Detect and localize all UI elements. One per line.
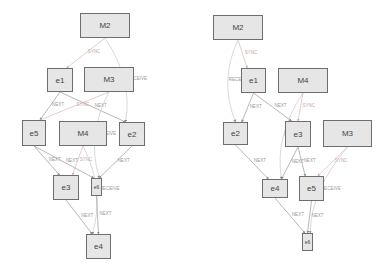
node-left-M4: M4	[59, 121, 107, 146]
edge-label: NEXT	[254, 158, 266, 163]
node-right-M3: M3	[323, 120, 372, 147]
edge-left-e5-e6	[34, 146, 94, 178]
edge-label: NEXT	[118, 158, 130, 163]
edge-label: SYNC	[80, 157, 93, 162]
edge-label: SYNC	[335, 158, 348, 163]
edge-label: NEXT	[304, 158, 316, 163]
node-left-e2: e2	[119, 122, 145, 146]
node-right-e3: e3	[285, 121, 311, 147]
node-right-e6: e6	[302, 233, 313, 251]
edge-label: NEXT	[81, 213, 93, 218]
edge-left-e1-e2	[60, 92, 126, 122]
edge-label: SYNC	[88, 49, 101, 54]
edge-label: NEXT	[95, 103, 107, 108]
node-right-M4: M4	[278, 68, 328, 93]
node-left-e3: e3	[53, 175, 79, 200]
node-right-M2: M2	[213, 15, 263, 40]
edge-label: NEXT	[52, 102, 64, 107]
edge-label: SYNC	[245, 50, 258, 55]
edge-label: SYNC	[303, 103, 316, 108]
node-left-e1: e1	[47, 68, 73, 92]
edge-label: NEXT	[275, 103, 287, 108]
node-left-e5: e5	[22, 120, 46, 146]
edge-label: NEXT	[250, 104, 262, 109]
node-left-e6: e6	[91, 178, 102, 196]
node-right-e5: e5	[299, 176, 324, 201]
node-right-e4: e4	[262, 179, 288, 198]
node-right-e2: e2	[223, 122, 248, 145]
edge-label: RECEIVE	[100, 186, 120, 191]
node-right-e1: e1	[241, 68, 266, 93]
edge-label: SYNC	[77, 102, 90, 107]
edge-label: NEXT	[292, 212, 304, 217]
node-left-e4: e4	[86, 234, 111, 259]
node-left-M3: M3	[84, 67, 134, 92]
edge-label: NEXT	[312, 213, 324, 218]
edge-label: NEXT	[66, 158, 78, 163]
node-left-M2: M2	[80, 13, 130, 38]
edge-label: NEXT	[100, 211, 112, 216]
